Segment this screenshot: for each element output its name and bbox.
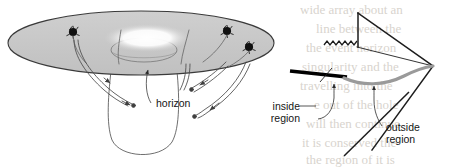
worldline-right2-inner: [198, 64, 250, 118]
worldline-endpoint: [190, 88, 194, 92]
outside-region-label-line1: outside: [386, 121, 420, 133]
bleed-line: wide array about an: [300, 2, 403, 17]
bleed-line: it is conserved the: [302, 135, 396, 150]
embedding-diagram-panel: horizon: [8, 11, 274, 155]
figure-svg: wide array about an line between the the…: [0, 0, 459, 168]
outside-region-label-line2: region: [386, 133, 415, 145]
bleed-line: the region of it is: [306, 152, 395, 167]
throat-highlight: [104, 24, 190, 52]
horizon-label: horizon: [156, 97, 191, 109]
space-sheet: [8, 11, 274, 75]
bleed-line: e out of the hole: [314, 97, 399, 112]
inside-region-label-line2: region: [271, 112, 300, 124]
figure-container: wide array about an line between the the…: [0, 0, 459, 168]
worldline-arrow: [104, 78, 110, 83]
worldline-arrow: [210, 103, 219, 110]
worldline-endpoint: [132, 104, 136, 108]
worldline-endpoint: [193, 115, 197, 119]
inside-region-label-line1: inside: [273, 100, 301, 112]
bleed-line: singularity and the: [302, 59, 399, 74]
